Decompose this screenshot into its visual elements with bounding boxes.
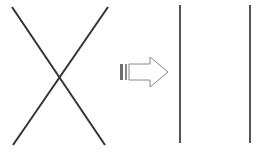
crossing-lines-x [12,7,108,145]
arrow-tail-bar-2 [125,64,127,80]
transformation-arrow [120,57,168,87]
diagram-svg [0,0,263,154]
diagonal-down-left-line [13,7,108,145]
arrow-body-icon [129,57,168,87]
diagram-canvas [0,0,263,154]
diagonal-down-right-line [12,7,105,145]
arrow-tail-bar-1 [120,64,123,80]
parallel-vertical-lines [180,5,250,143]
